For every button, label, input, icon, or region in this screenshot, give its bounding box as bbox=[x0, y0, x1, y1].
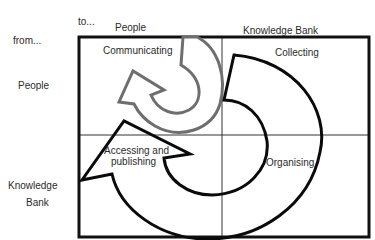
column-header-people: People bbox=[115, 22, 146, 34]
row-header-people: People bbox=[18, 80, 49, 92]
quadrant-label-organising: Organising bbox=[266, 157, 314, 169]
row-header-knowledge-bank-line2: Bank bbox=[26, 197, 49, 209]
quadrant-label-collecting: Collecting bbox=[275, 47, 319, 59]
from-label: from... bbox=[13, 35, 41, 47]
to-label: to... bbox=[78, 16, 95, 28]
matrix-frame bbox=[79, 37, 369, 237]
quadrant-label-communicating: Communicating bbox=[103, 45, 172, 57]
quadrant-label-accessing-line2: publishing bbox=[111, 156, 156, 168]
column-header-knowledge-bank: Knowledge Bank bbox=[243, 25, 318, 37]
row-header-knowledge-bank-line1: Knowledge bbox=[8, 180, 57, 192]
knowledge-flow-diagram bbox=[0, 0, 375, 240]
